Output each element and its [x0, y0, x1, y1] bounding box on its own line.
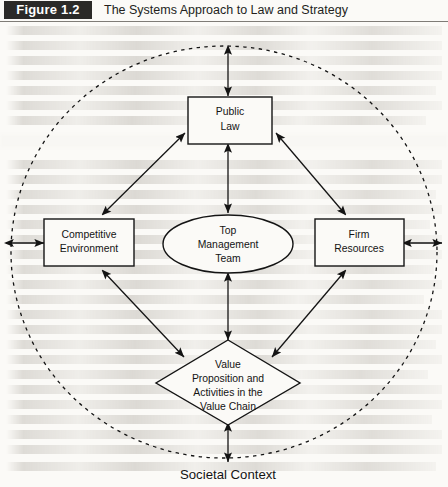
- public-law-label-line-1: Public: [216, 106, 244, 117]
- top-management-team-label-line-2: Management: [198, 239, 259, 250]
- node-public-law[interactable]: Public Law: [188, 97, 272, 144]
- systems-diagram: Public Law --> Public Law --> Value Prop…: [0, 0, 448, 487]
- value-proposition-label-line-3: Activities in the: [193, 387, 263, 398]
- connector-firm-resources-to-public-law: [276, 133, 345, 214]
- figure-header: Figure 1.2 The Systems Approach to Law a…: [0, 0, 448, 22]
- node-top-management-team[interactable]: Top Management Team: [163, 215, 293, 273]
- connector-competitive-to-value-proposition: [103, 271, 184, 357]
- value-proposition-label-line-1: Value: [215, 359, 241, 370]
- societal-context-label: Societal Context: [180, 467, 276, 482]
- header-divider: [0, 21, 448, 22]
- top-management-team-label-line-1: Top: [220, 225, 237, 236]
- figure-number-badge: Figure 1.2: [4, 1, 92, 19]
- figure-page: Figure 1.2 The Systems Approach to Law a…: [0, 0, 448, 487]
- node-competitive-environment[interactable]: Competitive Environment: [44, 219, 134, 266]
- connector-firm-resources-to-value-proposition: [272, 271, 345, 357]
- firm-resources-label-line-2: Resources: [334, 243, 384, 254]
- connector-competitive-to-public-law: [103, 133, 185, 214]
- node-firm-resources[interactable]: Firm Resources: [315, 219, 404, 266]
- node-value-proposition[interactable]: Value Proposition and Activities in the …: [156, 340, 300, 425]
- value-proposition-label-line-4: Value Chain: [200, 401, 256, 412]
- top-management-team-label-line-3: Team: [215, 253, 240, 264]
- value-proposition-label-line-2: Proposition and: [192, 373, 264, 384]
- firm-resources-label-line-1: Firm: [349, 229, 370, 240]
- competitive-environment-label-line-1: Competitive: [62, 229, 117, 240]
- figure-title: The Systems Approach to Law and Strategy: [104, 1, 348, 19]
- competitive-environment-label-line-2: Environment: [60, 243, 118, 254]
- public-law-label-line-2: Law: [220, 121, 240, 132]
